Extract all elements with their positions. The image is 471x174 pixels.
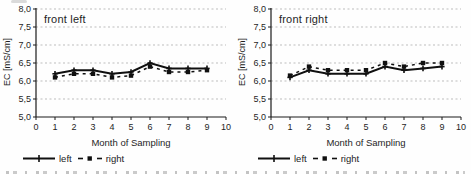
svg-text:6: 6: [147, 122, 152, 132]
svg-text:5,0: 5,0: [253, 112, 266, 122]
x-axis-title: Month of Sampling: [271, 137, 461, 148]
svg-text:6,0: 6,0: [18, 76, 31, 86]
svg-text:8: 8: [185, 122, 190, 132]
svg-text:0: 0: [268, 122, 273, 132]
legend-label-right: right: [341, 153, 359, 164]
y-axis-title: EC [mS/cm]: [1, 17, 13, 107]
svg-text:0: 0: [33, 122, 38, 132]
chart-front-left: 5,05,56,06,57,07,58,0012345678910 front …: [0, 0, 235, 174]
legend-label-left: left: [294, 153, 307, 164]
svg-text:3: 3: [325, 122, 330, 132]
svg-text:5,5: 5,5: [18, 94, 31, 104]
chart-title: front left: [44, 13, 86, 25]
svg-text:8: 8: [420, 122, 425, 132]
svg-text:10: 10: [221, 122, 231, 132]
legend-item-right: right: [77, 153, 124, 164]
legend-item-right: right: [312, 153, 359, 164]
plot-area-front-right: 5,05,56,06,57,07,58,0012345678910: [235, 0, 470, 136]
chart-title: front right: [279, 13, 328, 25]
dashed-line-square-marker-icon: [77, 154, 103, 163]
solid-line-plus-marker-icon: [257, 154, 291, 163]
legend-label-left: left: [59, 153, 72, 164]
svg-text:9: 9: [204, 122, 209, 132]
svg-text:7,5: 7,5: [253, 22, 266, 32]
cropped-caption-text: [6, 171, 465, 174]
svg-text:6: 6: [382, 122, 387, 132]
x-axis-title: Month of Sampling: [36, 137, 226, 148]
svg-text:7: 7: [401, 122, 406, 132]
svg-text:7: 7: [166, 122, 171, 132]
svg-text:1: 1: [52, 122, 57, 132]
svg-text:8,0: 8,0: [18, 4, 31, 14]
svg-text:7,5: 7,5: [18, 22, 31, 32]
figure: 5,05,56,06,57,07,58,0012345678910 front …: [0, 0, 471, 174]
svg-text:6,5: 6,5: [253, 58, 266, 68]
svg-text:6,5: 6,5: [18, 58, 31, 68]
svg-text:5: 5: [128, 122, 133, 132]
dashed-line-square-marker-icon: [312, 154, 338, 163]
solid-line-plus-marker-icon: [22, 154, 56, 163]
svg-text:8,0: 8,0: [253, 4, 266, 14]
legend-item-left: left: [257, 153, 307, 164]
legend: left right: [22, 152, 124, 164]
svg-text:2: 2: [71, 122, 76, 132]
svg-text:6,0: 6,0: [253, 76, 266, 86]
svg-text:2: 2: [306, 122, 311, 132]
legend: left right: [257, 152, 359, 164]
chart-front-right: 5,05,56,06,57,07,58,0012345678910 front …: [235, 0, 471, 174]
svg-text:3: 3: [90, 122, 95, 132]
legend-label-right: right: [106, 153, 124, 164]
svg-text:1: 1: [287, 122, 292, 132]
plot-area-front-left: 5,05,56,06,57,07,58,0012345678910: [0, 0, 235, 136]
svg-text:5,5: 5,5: [253, 94, 266, 104]
svg-text:4: 4: [344, 122, 349, 132]
svg-text:7,0: 7,0: [18, 40, 31, 50]
svg-text:9: 9: [439, 122, 444, 132]
svg-text:7,0: 7,0: [253, 40, 266, 50]
y-axis-title: EC [mS/cm]: [236, 17, 248, 107]
svg-text:5: 5: [363, 122, 368, 132]
svg-text:5,0: 5,0: [18, 112, 31, 122]
svg-text:4: 4: [109, 122, 114, 132]
legend-item-left: left: [22, 153, 72, 164]
svg-text:10: 10: [456, 122, 466, 132]
scan-artifact: [11, 0, 27, 3]
